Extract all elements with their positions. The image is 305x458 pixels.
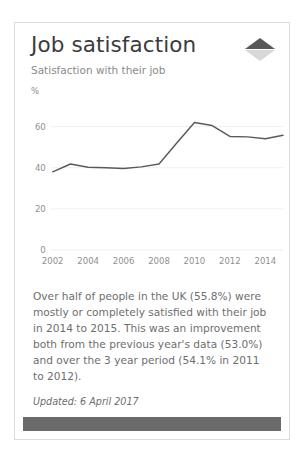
chart-series-line (53, 122, 283, 171)
svg-text:2008: 2008 (148, 256, 170, 266)
svg-text:2006: 2006 (113, 256, 135, 266)
svg-text:2014: 2014 (254, 256, 276, 266)
collapse-expand-triangles-icon[interactable] (243, 35, 277, 65)
chart-gridlines (51, 126, 283, 249)
card-body: Over half of people in the UK (55.8%) we… (15, 280, 289, 408)
triangle-down-icon (245, 50, 275, 61)
svg-text:2004: 2004 (77, 256, 99, 266)
svg-text:20: 20 (35, 204, 46, 214)
svg-text:60: 60 (35, 122, 46, 132)
svg-text:2002: 2002 (42, 256, 64, 266)
triangle-up-icon (245, 38, 275, 49)
chart-unit-label: % (15, 87, 289, 96)
svg-text:0: 0 (40, 245, 45, 255)
updated-timestamp: Updated: 6 April 2017 (33, 396, 271, 407)
page-root: Job satisfaction Satisfaction with their… (0, 0, 305, 458)
body-paragraph: Over half of people in the UK (55.8%) we… (33, 288, 271, 385)
card-header: Job satisfaction (15, 23, 289, 58)
card-subtitle: Satisfaction with their job (15, 64, 289, 78)
page-title: Job satisfaction (31, 33, 273, 58)
line-chart: 0204060 2002200420062008201020122014 (15, 98, 289, 280)
chart-x-tick-labels: 2002200420062008201020122014 (42, 256, 276, 266)
svg-text:40: 40 (35, 163, 46, 173)
chart-canvas: 0204060 2002200420062008201020122014 (15, 98, 289, 280)
svg-text:2012: 2012 (219, 256, 241, 266)
svg-text:2010: 2010 (184, 256, 206, 266)
chart-y-tick-labels: 0204060 (35, 122, 46, 255)
job-satisfaction-card: Job satisfaction Satisfaction with their… (14, 22, 290, 440)
card-footer-bar (23, 417, 281, 431)
